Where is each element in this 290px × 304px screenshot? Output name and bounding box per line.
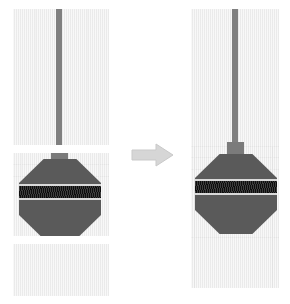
transform-arrow — [130, 142, 175, 168]
tile-middle — [13, 153, 109, 236]
guide-line-horizontal — [191, 237, 279, 238]
guide-line-vertical — [21, 153, 22, 236]
guide-line-horizontal — [191, 169, 279, 170]
tile-bottom — [13, 244, 109, 296]
tile-seam-upper — [0, 145, 125, 153]
guide-line-horizontal — [191, 146, 279, 147]
tile-seam-lower — [0, 236, 125, 244]
right-panel-merged — [180, 0, 290, 304]
guide-line-vertical — [99, 153, 100, 236]
guide-line-horizontal — [13, 176, 109, 177]
guide-line-vertical — [35, 9, 36, 145]
stem-segment-top — [56, 9, 62, 145]
guide-line-vertical — [194, 146, 195, 288]
guide-line-vertical — [272, 146, 273, 288]
figure-canvas — [0, 0, 290, 304]
left-panel-unmerged-tiles — [0, 0, 125, 304]
guide-line-horizontal — [13, 164, 109, 165]
merged-tile — [191, 9, 279, 288]
arrow-right-icon — [130, 142, 175, 168]
guide-line-horizontal — [191, 157, 279, 158]
guide-line-vertical — [87, 9, 88, 145]
